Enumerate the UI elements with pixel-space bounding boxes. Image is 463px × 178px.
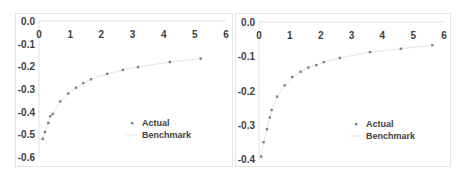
actual-data-point (67, 92, 69, 94)
x-tick-label: 6 (441, 30, 447, 41)
actual-data-point (269, 116, 271, 118)
actual-data-point (49, 115, 51, 117)
y-tick-label: -0.3 (18, 84, 36, 95)
actual-data-point (276, 95, 278, 97)
actual-data-point (59, 100, 61, 102)
y-tick-label: -0.1 (18, 39, 36, 50)
legend: ActualBenchmark (350, 119, 416, 141)
x-tick-label: 0 (256, 30, 262, 41)
x-tick-label: 3 (349, 30, 355, 41)
actual-data-point (307, 66, 309, 68)
chart-right: 01234560.0-0.1-0.2-0.3-0.4ActualBenchmar… (235, 13, 451, 167)
x-tick-label: 1 (67, 29, 73, 40)
chart-left: 01234560.0-0.1-0.2-0.3-0.4-0.5-0.6Actual… (15, 13, 233, 167)
actual-data-point (52, 113, 54, 115)
y-tick-label: -0.3 (238, 120, 256, 131)
legend-label-benchmark: Benchmark (142, 130, 192, 140)
actual-data-point (90, 78, 92, 80)
legend: ActualBenchmark (126, 118, 192, 140)
actual-data-point (200, 57, 202, 59)
x-tick-label: 5 (192, 29, 198, 40)
legend-label-actual: Actual (366, 119, 394, 129)
x-tick-label: 4 (380, 30, 386, 41)
y-tick-label: -0.4 (18, 107, 36, 118)
actual-data-point (169, 61, 171, 63)
actual-data-point (122, 69, 124, 71)
y-tick-label: -0.2 (18, 61, 36, 72)
y-tick-label: -0.2 (238, 86, 256, 97)
actual-data-point (82, 82, 84, 84)
x-tick-label: 2 (318, 30, 324, 41)
actual-data-point (323, 61, 325, 63)
y-tick-label: -0.5 (18, 129, 36, 140)
scatter-plot-right: 01234560.0-0.1-0.2-0.3-0.4ActualBenchmar… (236, 14, 452, 168)
actual-data-point (291, 76, 293, 78)
actual-data-point (299, 70, 301, 72)
actual-data-point (400, 48, 402, 50)
x-tick-label: 2 (99, 29, 105, 40)
actual-data-point (266, 128, 268, 130)
legend-marker-actual (131, 122, 133, 124)
y-tick-label: -0.1 (238, 51, 256, 62)
actual-data-point (75, 86, 77, 88)
x-tick-label: 3 (130, 29, 136, 40)
actual-data-point (137, 66, 139, 68)
actual-data-point (339, 57, 341, 59)
legend-label-benchmark: Benchmark (366, 131, 416, 141)
actual-data-point (283, 84, 285, 86)
actual-data-point (369, 51, 371, 53)
legend-label-actual: Actual (142, 118, 170, 128)
y-tick-label: 0.0 (241, 17, 255, 28)
actual-data-point (262, 141, 264, 143)
x-tick-label: 4 (161, 29, 167, 40)
actual-data-point (270, 109, 272, 111)
y-tick-label: -0.6 (18, 152, 36, 163)
scatter-plot-left: 01234560.0-0.1-0.2-0.3-0.4-0.5-0.6Actual… (16, 14, 234, 168)
x-tick-label: 6 (223, 29, 229, 40)
actual-data-point (260, 155, 262, 157)
x-tick-label: 0 (36, 29, 42, 40)
y-tick-label: -0.4 (238, 154, 256, 165)
y-tick-label: 0.0 (21, 16, 35, 27)
actual-data-point (44, 131, 46, 133)
legend-marker-actual (355, 123, 357, 125)
actual-data-point (106, 73, 108, 75)
x-tick-label: 5 (410, 30, 416, 41)
actual-data-point (42, 138, 44, 140)
actual-data-point (431, 44, 433, 46)
actual-data-point (315, 64, 317, 66)
actual-data-point (47, 122, 49, 124)
x-tick-label: 1 (287, 30, 293, 41)
